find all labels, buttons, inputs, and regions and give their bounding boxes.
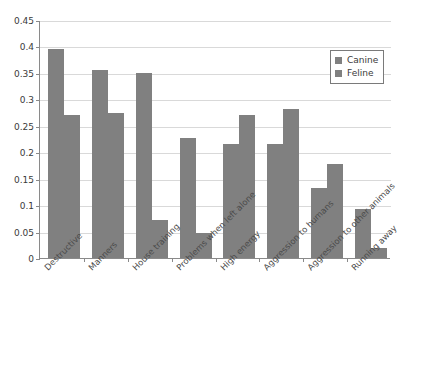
y-axis-tick-label: 0.4 — [20, 43, 34, 52]
bar-group — [136, 20, 168, 258]
y-axis-tick-label: 0.25 — [14, 122, 34, 131]
legend-item[interactable]: Canine — [335, 54, 378, 67]
y-axis-tick-mark — [36, 233, 40, 234]
bar-feline — [108, 113, 124, 258]
x-axis-tick-mark — [347, 258, 348, 262]
bar-group — [267, 20, 299, 258]
bar-canine — [180, 138, 196, 258]
y-axis-tick-mark — [36, 127, 40, 128]
bar-canine — [92, 70, 108, 258]
bar-group — [92, 20, 124, 258]
legend-swatch-icon — [335, 57, 342, 64]
y-axis-tick-label: 0.1 — [20, 202, 34, 211]
bar-canine — [48, 49, 64, 258]
x-axis-tick-mark — [303, 258, 304, 262]
legend-item[interactable]: Feline — [335, 67, 378, 80]
bar-canine — [136, 73, 152, 258]
y-axis-tick-label: 0.2 — [20, 149, 34, 158]
x-axis-tick-mark — [172, 258, 173, 262]
y-axis-tick-label: 0.05 — [14, 228, 34, 237]
legend: CanineFeline — [330, 50, 384, 84]
y-axis-tick-mark — [36, 74, 40, 75]
bar-chart: 00.050.10.150.20.250.30.350.40.45 Destru… — [0, 0, 431, 368]
y-axis-tick-label: 0.15 — [14, 175, 34, 184]
x-axis-tick-mark — [84, 258, 85, 262]
x-axis-tick-mark — [259, 258, 260, 262]
y-axis-tick-mark — [36, 206, 40, 207]
bar-group — [180, 20, 212, 258]
y-axis-tick-mark — [36, 21, 40, 22]
legend-swatch-icon — [335, 70, 342, 77]
legend-label: Feline — [347, 69, 373, 78]
y-axis-tick-label: 0 — [28, 255, 34, 264]
y-axis-tick-mark — [36, 259, 40, 260]
y-axis-tick-label: 0.35 — [14, 69, 34, 78]
bar-group — [48, 20, 80, 258]
y-axis-tick-mark — [36, 180, 40, 181]
x-axis-tick-mark — [128, 258, 129, 262]
y-axis-tick-mark — [36, 47, 40, 48]
y-axis-tick-mark — [36, 100, 40, 101]
bar-canine — [267, 144, 283, 258]
y-axis-tick-label: 0.45 — [14, 17, 34, 26]
legend-label: Canine — [347, 56, 378, 65]
x-axis-tick-mark — [216, 258, 217, 262]
y-axis-tick-mark — [36, 153, 40, 154]
y-axis-tick-label: 0.3 — [20, 96, 34, 105]
